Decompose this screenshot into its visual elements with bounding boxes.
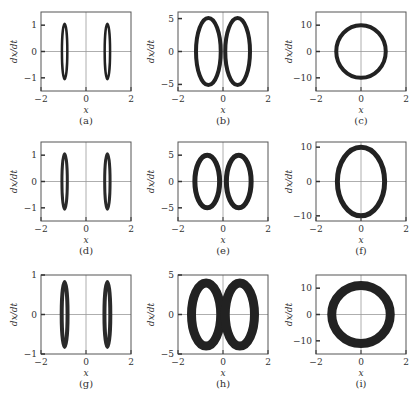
x-tick-label: 2 [403,357,409,367]
y-axis-label: dx/dt [284,302,294,326]
panel-caption: (i) [355,378,366,389]
x-axis-label: x [358,368,363,378]
panel-i: −202−10010xdx/dt(i) [0,0,419,394]
y-tick-label: 10 [301,283,313,293]
x-tick-label: 0 [358,357,364,367]
y-tick-label: 0 [306,310,312,320]
y-tick-label: −10 [293,336,312,346]
x-tick-label: −2 [309,357,322,367]
